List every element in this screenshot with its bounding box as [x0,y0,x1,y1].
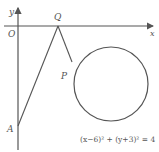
circle-equation: (x−6)² + (y+3)² = 4 [80,135,155,144]
geometry-diagram: y x O Q P A (x−6)² + (y+3)² = 4 [0,0,159,152]
point-q-label: Q [54,12,62,22]
origin-label: O [8,29,16,39]
y-axis-label: y [8,7,15,17]
point-p-label: P [60,71,68,81]
x-axis-label: x [150,29,155,38]
circle [74,47,148,121]
segment-qp [58,26,72,62]
point-a-label: A [6,124,14,134]
segment-aq [18,26,58,126]
